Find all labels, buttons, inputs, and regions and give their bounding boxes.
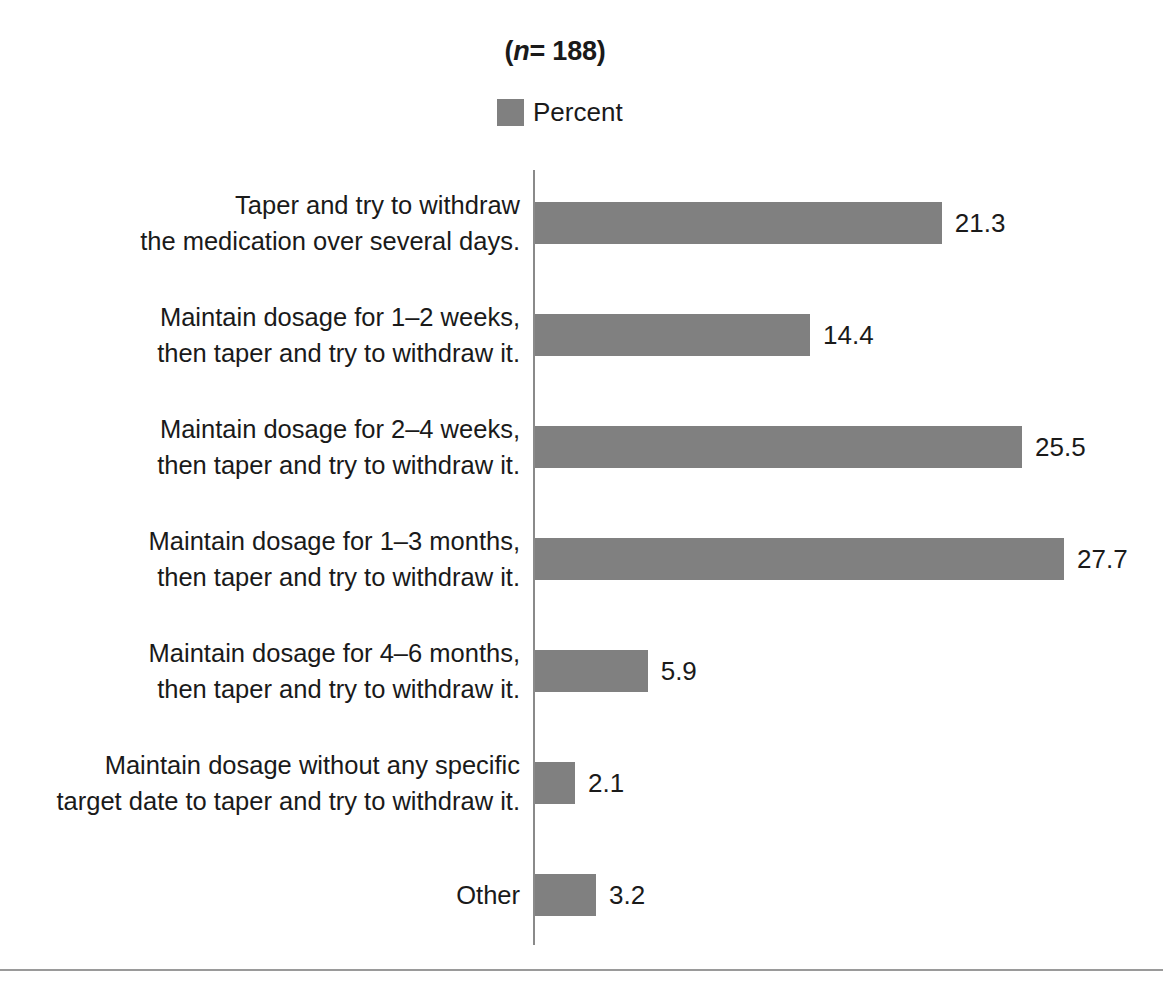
bar-value-label: 21.3 <box>955 202 1006 244</box>
category-label: Other <box>0 877 520 913</box>
bar-value-label: 25.5 <box>1035 426 1086 468</box>
bar-value-label: 3.2 <box>609 874 645 916</box>
bar-percent[interactable] <box>535 762 575 804</box>
bar-row: Taper and try to withdraw the medication… <box>0 183 1163 263</box>
bar-row: Maintain dosage for 2–4 weeks, then tape… <box>0 407 1163 487</box>
bar-value-label: 5.9 <box>661 650 697 692</box>
bar-row: Maintain dosage without any specific tar… <box>0 743 1163 823</box>
bar-row: Maintain dosage for 1–2 weeks, then tape… <box>0 295 1163 375</box>
plot-area: Taper and try to withdraw the medication… <box>0 0 1163 984</box>
bar-value-label: 14.4 <box>823 314 874 356</box>
bar-percent[interactable] <box>535 314 810 356</box>
bar-percent[interactable] <box>535 874 596 916</box>
bar-percent[interactable] <box>535 538 1064 580</box>
category-label: Maintain dosage for 2–4 weeks, then tape… <box>0 411 520 483</box>
bar-row: Other3.2 <box>0 855 1163 935</box>
bar-percent[interactable] <box>535 202 942 244</box>
category-label: Maintain dosage for 1–2 weeks, then tape… <box>0 299 520 371</box>
bar-row: Maintain dosage for 4–6 months, then tap… <box>0 631 1163 711</box>
category-label: Maintain dosage without any specific tar… <box>0 747 520 819</box>
figure-bottom-rule <box>0 969 1163 971</box>
category-label: Taper and try to withdraw the medication… <box>0 187 520 259</box>
category-label: Maintain dosage for 4–6 months, then tap… <box>0 635 520 707</box>
bar-value-label: 27.7 <box>1077 538 1128 580</box>
category-label: Maintain dosage for 1–3 months, then tap… <box>0 523 520 595</box>
bar-percent[interactable] <box>535 426 1022 468</box>
bar-value-label: 2.1 <box>588 762 624 804</box>
bar-row: Maintain dosage for 1–3 months, then tap… <box>0 519 1163 599</box>
bar-chart-figure: (n= 188) Percent Taper and try to withdr… <box>0 0 1163 984</box>
bar-percent[interactable] <box>535 650 648 692</box>
